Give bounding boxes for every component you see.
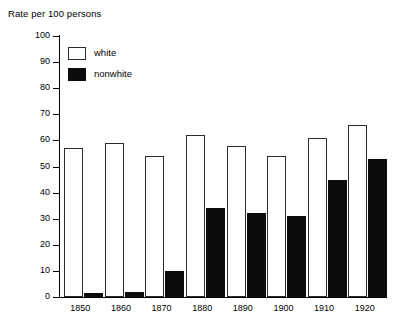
y-axis-tick [53, 140, 59, 141]
x-axis-tick-label: 1870 [141, 303, 182, 313]
bar-white-1880 [186, 135, 205, 297]
bar-white-1870 [145, 156, 164, 297]
bar-nonwhite-1870 [165, 271, 184, 297]
y-axis-tick [53, 193, 59, 194]
bar-nonwhite-1900 [287, 216, 306, 297]
bar-white-1860 [105, 143, 124, 297]
x-axis-tick-label: 1900 [263, 303, 304, 313]
chart-title: Rate per 100 persons [8, 8, 101, 19]
y-axis-tick-label: 70 [22, 109, 50, 118]
y-axis-tick-label: 40 [22, 188, 50, 197]
legend-item-nonwhite: nonwhite [68, 65, 132, 83]
bar-chart: Rate per 100 persons 0102030405060708090… [0, 0, 403, 328]
x-axis-tick-label: 1850 [60, 303, 101, 313]
bar-white-1850 [64, 148, 83, 297]
y-axis-tick [53, 167, 59, 168]
y-axis-tick [53, 219, 59, 220]
y-axis-tick [53, 114, 59, 115]
y-axis-tick-label: 0 [22, 292, 50, 301]
x-axis-tick-label: 1860 [101, 303, 142, 313]
x-axis-tick-label: 1910 [304, 303, 345, 313]
y-axis-tick-label: 90 [22, 57, 50, 66]
bar-white-1920 [348, 125, 367, 297]
y-axis-tick [53, 245, 59, 246]
y-axis-tick-label: 80 [22, 83, 50, 92]
y-axis-tick-label: 20 [22, 240, 50, 249]
bar-nonwhite-1910 [328, 180, 347, 297]
bar-nonwhite-1880 [206, 208, 225, 297]
bar-nonwhite-1860 [125, 292, 144, 297]
bar-white-1910 [308, 138, 327, 297]
x-axis-tick-label: 1890 [223, 303, 264, 313]
y-axis-tick-label: 60 [22, 135, 50, 144]
y-axis-tick [53, 62, 59, 63]
x-axis-line [59, 297, 387, 298]
y-axis-tick [53, 88, 59, 89]
bar-white-1900 [267, 156, 286, 297]
y-axis-tick [53, 297, 59, 298]
legend: white nonwhite [68, 44, 132, 86]
bar-white-1890 [227, 146, 246, 297]
legend-label-white: white [94, 48, 116, 58]
filled-square-swatch-icon [68, 68, 86, 81]
legend-label-nonwhite: nonwhite [94, 69, 132, 79]
x-axis-tick-label: 1880 [182, 303, 223, 313]
y-axis-tick [53, 36, 59, 37]
y-axis-tick-label: 100 [22, 31, 50, 40]
y-axis-tick-label: 30 [22, 214, 50, 223]
bar-nonwhite-1890 [247, 213, 266, 297]
legend-item-white: white [68, 44, 132, 62]
bar-nonwhite-1850 [84, 293, 103, 297]
bar-nonwhite-1920 [368, 159, 387, 297]
open-square-swatch-icon [68, 47, 86, 60]
y-axis-tick [53, 271, 59, 272]
y-axis-tick-label: 50 [22, 162, 50, 171]
y-axis-tick-label: 10 [22, 266, 50, 275]
x-axis-tick-label: 1920 [344, 303, 385, 313]
